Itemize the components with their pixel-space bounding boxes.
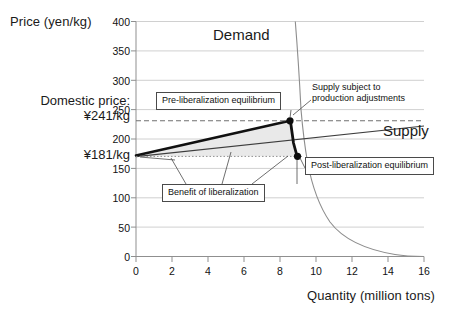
x-tick-12: 12 <box>342 265 362 277</box>
x-tick-16: 16 <box>414 265 434 277</box>
y-tick-250: 250 <box>104 104 130 116</box>
y-tick-200: 200 <box>104 133 130 145</box>
x-tick-6: 6 <box>234 265 254 277</box>
y-axis <box>131 22 136 257</box>
x-tick-8: 8 <box>270 265 290 277</box>
supply-curve-label: Supply <box>383 122 429 139</box>
benefit-of-liberalization-callout: Benefit of liberalization <box>162 184 265 202</box>
x-tick-2: 2 <box>162 265 182 277</box>
y-tick-0: 0 <box>104 251 130 263</box>
x-axis <box>136 257 424 263</box>
supply-adjustment-note-line1: Supply subject to <box>312 82 381 92</box>
post-liberalization-equilibrium-callout: Post-liberalization equilibrium <box>305 157 434 175</box>
chart-canvas: Price (yen/kg) Quantity (million tons) D… <box>0 0 451 317</box>
pre-liberalization-equilibrium-callout: Pre-liberalization equilibrium <box>156 92 281 110</box>
x-tick-0: 0 <box>126 265 146 277</box>
supply-adjustment-note-line2: production adjustments <box>312 93 405 104</box>
y-tick-50: 50 <box>104 222 130 234</box>
y-tick-300: 300 <box>104 75 130 87</box>
supply-adjustment-note: Supply subject to production adjustments <box>312 82 405 104</box>
pre-liberalization-equilibrium-point <box>286 117 293 124</box>
x-tick-10: 10 <box>306 265 326 277</box>
y-tick-400: 400 <box>104 16 130 28</box>
x-tick-14: 14 <box>378 265 398 277</box>
y-tick-150: 150 <box>104 163 130 175</box>
x-tick-4: 4 <box>198 265 218 277</box>
y-tick-350: 350 <box>104 45 130 57</box>
y-tick-100: 100 <box>104 192 130 204</box>
demand-curve-label: Demand <box>213 26 270 43</box>
